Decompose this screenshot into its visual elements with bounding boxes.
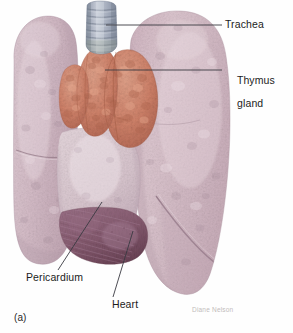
trachea — [84, 0, 120, 56]
label-thymus-line2: gland — [237, 97, 263, 109]
label-thymus-line1: Thymus — [237, 74, 275, 86]
anatomical-figure: Trachea Thymus gland Pericardium Heart (… — [0, 0, 293, 333]
label-pericardium: Pericardium — [26, 272, 83, 284]
label-heart: Heart — [112, 299, 138, 311]
label-trachea: Trachea — [225, 19, 264, 31]
artist-credit: Diane Nelson — [192, 306, 233, 313]
panel-letter: (a) — [14, 312, 27, 324]
heart — [56, 207, 148, 270]
label-thymus-gland: Thymus gland — [225, 63, 275, 121]
